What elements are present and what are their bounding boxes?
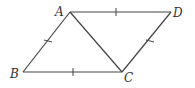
vertex-label-d: D [172,6,183,20]
segment-cd [122,12,171,72]
vertex-label-b: B [9,67,19,81]
segment-ac [70,12,122,72]
vertex-label-c: C [124,71,133,85]
vertex-label-a: A [54,5,64,19]
segment-ab [23,12,70,72]
geometry-diagram: A D B C [0,0,195,88]
